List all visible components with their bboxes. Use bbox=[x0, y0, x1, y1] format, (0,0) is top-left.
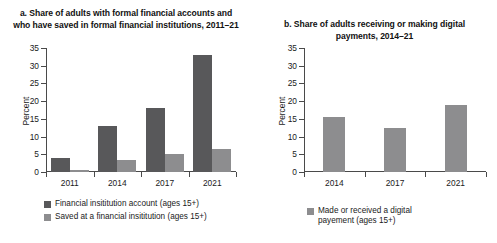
y-tick-label: 30 bbox=[30, 62, 39, 70]
y-tick-mark bbox=[41, 66, 46, 67]
y-tick-mark bbox=[41, 137, 46, 138]
bar bbox=[51, 158, 70, 172]
x-axis-label: 2021 bbox=[425, 178, 486, 188]
bar bbox=[212, 149, 231, 172]
bar bbox=[323, 117, 345, 172]
legend-swatch-icon bbox=[44, 201, 51, 208]
x-axis-label: 2021 bbox=[189, 178, 237, 188]
panel-a-y-axis-line bbox=[46, 48, 47, 172]
panel-b-x-axis-labels: 201420172021 bbox=[304, 178, 486, 188]
legend-item: Saved at a financial insititution (ages … bbox=[44, 212, 252, 222]
x-axis-label: 2011 bbox=[46, 178, 94, 188]
bar-group bbox=[425, 48, 486, 172]
y-tick-mark bbox=[299, 101, 304, 102]
bar bbox=[70, 170, 89, 172]
y-tick-label: 20 bbox=[288, 97, 297, 105]
panel-b-y-axis-label: Percent bbox=[277, 97, 287, 126]
panel-a-x-axis-line bbox=[46, 171, 236, 172]
legend-swatch-icon bbox=[307, 208, 314, 215]
y-tick-mark bbox=[299, 119, 304, 120]
y-tick-label: 10 bbox=[30, 132, 39, 140]
legend-label: Made or received a digital payement (age… bbox=[318, 206, 438, 226]
y-tick-label: 5 bbox=[34, 150, 39, 158]
bar-group bbox=[304, 48, 365, 172]
panel-a-y-axis-label: Percent bbox=[21, 97, 31, 126]
legend-item: Made or received a digital payement (age… bbox=[307, 206, 497, 226]
x-tick-mark bbox=[365, 172, 366, 177]
x-tick-mark bbox=[141, 172, 142, 177]
y-tick-label: 15 bbox=[30, 115, 39, 123]
y-tick-label: 20 bbox=[30, 97, 39, 105]
x-tick-mark bbox=[236, 172, 237, 177]
bar bbox=[117, 160, 136, 172]
x-axis-label: 2017 bbox=[365, 178, 426, 188]
y-tick-mark bbox=[41, 172, 46, 173]
y-tick-mark bbox=[299, 66, 304, 67]
legend-item: Financial insititution account (ages 15+… bbox=[44, 199, 252, 209]
panel-b-bar-groups bbox=[304, 48, 486, 172]
bar-group bbox=[94, 48, 142, 172]
bar-group bbox=[141, 48, 189, 172]
panel-a-bar-groups bbox=[46, 48, 236, 172]
y-tick-label: 35 bbox=[30, 44, 39, 52]
panel-a-x-axis-labels: 2011201420172021 bbox=[46, 178, 236, 188]
y-tick-label: 30 bbox=[288, 62, 297, 70]
y-tick-mark bbox=[41, 154, 46, 155]
bar bbox=[384, 128, 406, 172]
y-tick-mark bbox=[299, 154, 304, 155]
x-axis-label: 2017 bbox=[141, 178, 189, 188]
legend-swatch-icon bbox=[44, 214, 51, 221]
y-tick-mark bbox=[299, 172, 304, 173]
y-tick-mark bbox=[299, 137, 304, 138]
x-tick-mark bbox=[486, 172, 487, 177]
figure-container: a. Share of adults with formal financial… bbox=[0, 0, 497, 243]
bar-group bbox=[365, 48, 426, 172]
panel-b-title: b. Share of adults receiving or making d… bbox=[252, 19, 497, 42]
panel-b-x-axis-line bbox=[304, 171, 486, 172]
x-tick-mark bbox=[94, 172, 95, 177]
bar bbox=[445, 105, 467, 172]
y-tick-mark bbox=[41, 83, 46, 84]
y-tick-label: 35 bbox=[288, 44, 297, 52]
panel-a-legend: Financial insititution account (ages 15+… bbox=[44, 199, 252, 225]
bar-group bbox=[46, 48, 94, 172]
y-tick-label: 5 bbox=[292, 150, 297, 158]
bar bbox=[165, 154, 184, 172]
bar bbox=[193, 55, 212, 172]
panel-b-legend: Made or received a digital payement (age… bbox=[307, 206, 497, 229]
y-tick-label: 25 bbox=[288, 79, 297, 87]
x-axis-label: 2014 bbox=[304, 178, 365, 188]
y-tick-mark bbox=[41, 48, 46, 49]
y-tick-label: 10 bbox=[288, 132, 297, 140]
bar-group bbox=[189, 48, 237, 172]
x-tick-mark bbox=[189, 172, 190, 177]
x-tick-mark bbox=[46, 172, 47, 177]
y-tick-label: 0 bbox=[34, 168, 39, 176]
panel-b-y-axis-line bbox=[304, 48, 305, 172]
y-tick-label: 25 bbox=[30, 79, 39, 87]
y-tick-mark bbox=[41, 119, 46, 120]
x-tick-mark bbox=[425, 172, 426, 177]
chart-panel-b: b. Share of adults receiving or making d… bbox=[252, 0, 497, 243]
y-tick-label: 0 bbox=[292, 168, 297, 176]
chart-panel-a: a. Share of adults with formal financial… bbox=[0, 0, 252, 243]
bar bbox=[98, 126, 117, 172]
y-tick-mark bbox=[299, 83, 304, 84]
y-tick-label: 15 bbox=[288, 115, 297, 123]
panel-a-title: a. Share of adults with formal financial… bbox=[0, 8, 252, 31]
legend-label: Saved at a financial insititution (ages … bbox=[55, 212, 207, 222]
y-tick-mark bbox=[41, 101, 46, 102]
y-tick-mark bbox=[299, 48, 304, 49]
x-axis-label: 2014 bbox=[94, 178, 142, 188]
x-tick-mark bbox=[304, 172, 305, 177]
bar bbox=[146, 108, 165, 172]
legend-label: Financial insititution account (ages 15+… bbox=[55, 199, 199, 209]
